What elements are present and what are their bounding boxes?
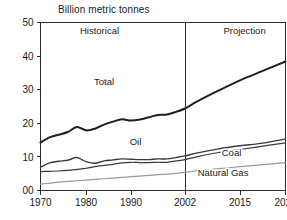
x-tick-label: 2025 (274, 197, 287, 208)
region-label-projection: Projection (223, 25, 265, 36)
region-label-historical: Historical (80, 25, 119, 36)
series-label-natural-gas: Natural Gas (198, 167, 249, 178)
series-label-coal: Coal (222, 147, 242, 158)
x-axis-ticks: 197019801990200220152025 (29, 191, 287, 208)
y-tick-label: 00 (22, 185, 34, 196)
y-tick-label: 20 (22, 118, 34, 129)
y-tick-label: 10 (22, 152, 34, 163)
data-series-group (41, 61, 286, 184)
x-tick-label: 2015 (229, 197, 252, 208)
chart-plot-area: 504030201000 197019801990200220152025 To… (0, 0, 287, 220)
region-label-group: HistoricalProjection (80, 25, 266, 36)
y-axis-ticks: 504030201000 (22, 17, 40, 196)
y-tick-label: 50 (22, 17, 34, 28)
y-tick-label: 30 (22, 84, 34, 95)
x-tick-label: 1980 (75, 197, 98, 208)
x-tick-label: 1970 (29, 197, 52, 208)
x-tick-label: 1990 (120, 197, 143, 208)
series-line-natural-gas (41, 163, 286, 185)
chart-container: Billion metric tonnes 504030201000 19701… (0, 0, 287, 220)
series-label-total: Total (94, 76, 114, 87)
series-line-total (41, 61, 286, 142)
series-label-oil: Oil (130, 136, 142, 147)
y-tick-label: 40 (22, 51, 34, 62)
series-label-group: TotalTotalOilOilCoalCoalNatural GasNatur… (94, 76, 249, 179)
x-tick-label: 2002 (174, 197, 197, 208)
series-line-oil (41, 139, 286, 167)
